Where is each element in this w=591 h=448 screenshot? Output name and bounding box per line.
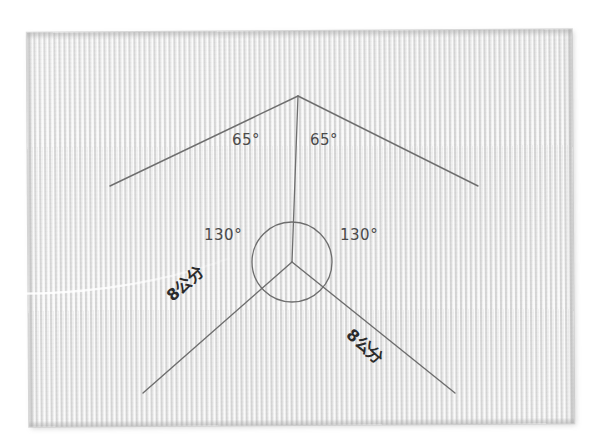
geometry-drawing xyxy=(0,0,591,448)
vertical-ray xyxy=(292,96,298,262)
angle-label-top-left: 65° xyxy=(232,131,260,149)
lower-right-ray xyxy=(292,262,455,393)
screenshot-root: 65° 65° 130° 130° 8公分 8公分 xyxy=(0,0,591,448)
angle-label-bottom-left: 130° xyxy=(204,226,242,244)
angle-label-bottom-right: 130° xyxy=(340,226,378,244)
angle-label-top-right: 65° xyxy=(310,131,338,149)
upper-left-ray xyxy=(110,96,298,186)
